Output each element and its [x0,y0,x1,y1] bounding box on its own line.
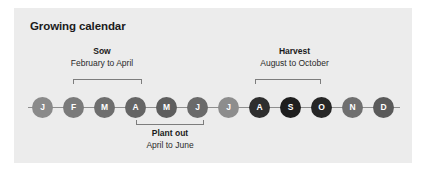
growing-calendar-card: Growing calendar Sow February to April H… [14,8,412,163]
month-marker-july[interactable]: J [218,97,239,118]
annotation-harvest-bracket [255,79,321,85]
month-marker-october[interactable]: O [311,97,332,118]
month-marker-november[interactable]: N [342,97,363,118]
month-marker-january[interactable]: J [32,97,53,118]
bracket-tick-left [255,79,256,84]
annotation-harvest-title: Harvest [229,46,360,57]
bracket-bar [136,124,204,125]
annotation-harvest: Harvest August to October [229,46,360,69]
month-marker-august[interactable]: A [249,97,270,118]
annotation-sow-bracket [73,79,142,85]
annotation-plant-out-title: Plant out [112,128,228,139]
annotation-plant-out: Plant out April to June [112,128,228,151]
annotation-harvest-range: August to October [229,57,360,69]
bracket-tick-right [203,120,204,125]
month-marker-may[interactable]: M [156,97,177,118]
bracket-bar [73,79,142,80]
month-marker-march[interactable]: M [94,97,115,118]
bracket-tick-right [320,79,321,84]
annotation-sow: Sow February to April [44,46,160,69]
month-marker-september[interactable]: S [280,97,301,118]
annotation-plant-out-bracket [136,119,204,125]
month-marker-april[interactable]: A [125,97,146,118]
month-marker-june[interactable]: J [187,97,208,118]
bracket-bar [255,79,321,80]
bracket-tick-right [141,79,142,84]
annotation-sow-title: Sow [44,46,160,57]
annotation-plant-out-range: April to June [112,139,228,151]
growing-calendar-page: Growing calendar Sow February to April H… [0,0,429,177]
month-marker-february[interactable]: F [63,97,84,118]
bracket-tick-left [73,79,74,84]
month-marker-december[interactable]: D [373,97,394,118]
bracket-tick-left [136,120,137,125]
annotation-sow-range: February to April [44,57,160,69]
month-timeline: Sow February to April Harvest August to … [14,8,412,163]
